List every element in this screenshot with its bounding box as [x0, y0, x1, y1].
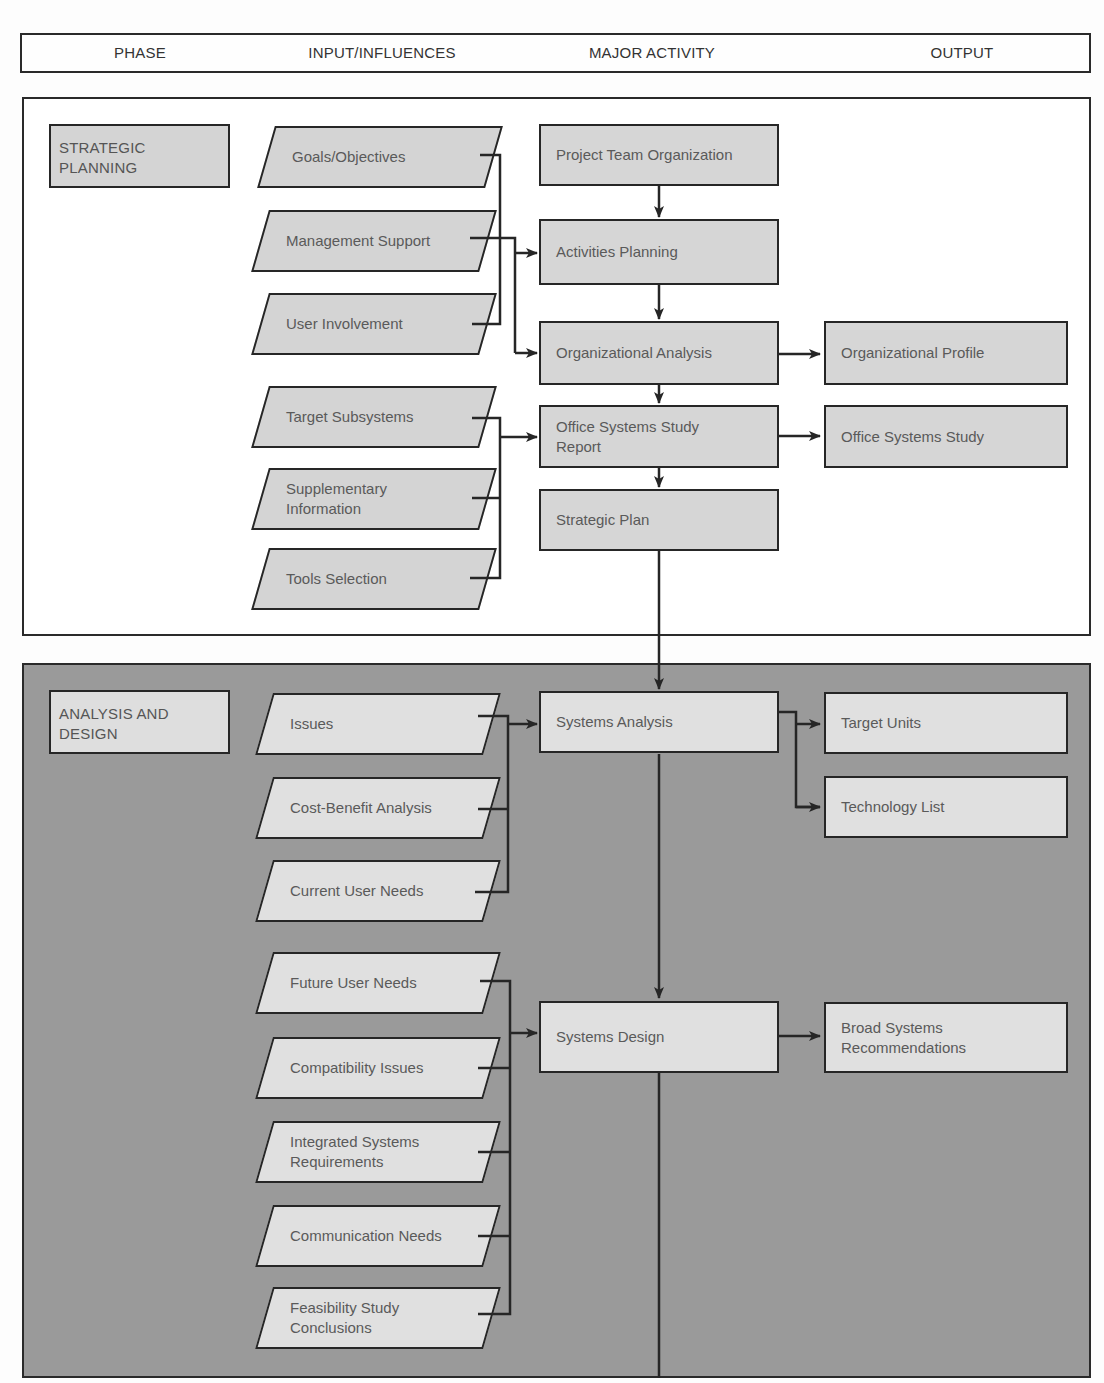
input-target-subsystems: Target Subsystems — [260, 386, 488, 448]
input-user-involvement: User Involvement — [260, 293, 488, 355]
input-integrated-systems-requirements: Integrated Systems Requirements — [264, 1121, 492, 1183]
input-management-support: Management Support — [260, 210, 488, 272]
output-technology-list: Technology List — [824, 776, 1068, 838]
column-header-major-activity: MAJOR ACTIVITY — [552, 35, 752, 71]
output-office-systems-study: Office Systems Study — [824, 405, 1068, 468]
input-tools-selection: Tools Selection — [260, 548, 488, 610]
input-supplementary-information: Supplementary Information — [260, 468, 488, 530]
phase-label-analysis-and-design: ANALYSIS AND DESIGN — [49, 690, 230, 754]
input-current-user-needs: Current User Needs — [264, 860, 492, 922]
section-strategic-planning: STRATEGIC PLANNING Goals/Objectives Mana… — [22, 97, 1091, 636]
activity-systems-design: Systems Design — [539, 1001, 779, 1073]
input-issues: Issues — [264, 693, 492, 755]
column-header-bar: PHASE INPUT/INFLUENCES MAJOR ACTIVITY OU… — [20, 33, 1091, 73]
section-analysis-and-design: ANALYSIS AND DESIGN Issues Cost-Benefit … — [22, 663, 1091, 1378]
column-header-output: OUTPUT — [902, 35, 1022, 71]
input-cost-benefit-analysis: Cost-Benefit Analysis — [264, 777, 492, 839]
input-future-user-needs: Future User Needs — [264, 952, 492, 1014]
activity-project-team-organization: Project Team Organization — [539, 124, 779, 186]
column-header-phase: PHASE — [80, 35, 200, 71]
column-header-input-influences: INPUT/INFLUENCES — [272, 35, 492, 71]
activity-systems-analysis: Systems Analysis — [539, 691, 779, 753]
activity-activities-planning: Activities Planning — [539, 219, 779, 285]
input-feasibility-study-conclusions: Feasibility Study Conclusions — [264, 1287, 492, 1349]
activity-office-systems-study-report: Office Systems Study Report — [539, 405, 779, 468]
phase-label-strategic-planning: STRATEGIC PLANNING — [49, 124, 230, 188]
activity-strategic-plan: Strategic Plan — [539, 489, 779, 551]
activity-organizational-analysis: Organizational Analysis — [539, 321, 779, 385]
input-compatibility-issues: Compatibility Issues — [264, 1037, 492, 1099]
output-organizational-profile: Organizational Profile — [824, 321, 1068, 385]
input-goals-objectives: Goals/Objectives — [266, 126, 494, 188]
input-communication-needs: Communication Needs — [264, 1205, 492, 1267]
output-broad-systems-recommendations: Broad Systems Recommendations — [824, 1002, 1068, 1073]
output-target-units: Target Units — [824, 692, 1068, 754]
